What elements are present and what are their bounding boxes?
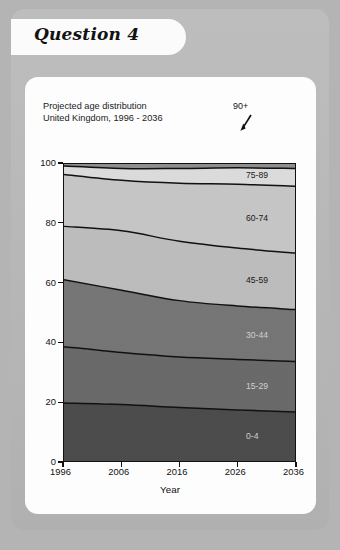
band-label: 60-74	[246, 213, 268, 223]
y-axis-tick	[58, 282, 63, 283]
stacked-area-chart	[63, 163, 296, 462]
y-axis-tick-label: 80	[27, 217, 56, 228]
x-axis-tick	[295, 462, 296, 467]
x-axis-tick-label: 2016	[167, 466, 188, 477]
x-axis-title: Year	[0, 484, 340, 495]
figure-title: Projected age distribution United Kingdo…	[43, 100, 163, 125]
figure-title-line-2: United Kingdom, 1996 - 2036	[43, 112, 163, 124]
band-label: 15-29	[246, 381, 268, 391]
figure-title-line-1: Projected age distribution	[43, 100, 163, 112]
y-axis-tick-label: 100	[27, 157, 56, 168]
y-axis-tick	[58, 402, 63, 403]
x-axis-tick	[237, 462, 238, 467]
annotation-90plus-label: 90+	[233, 101, 248, 111]
question-label: Question 4	[34, 24, 139, 44]
x-axis-tick	[121, 462, 122, 467]
band-label: 0-4	[246, 431, 258, 441]
arrow-down-left-icon	[239, 114, 253, 132]
y-axis-tick	[58, 342, 63, 343]
y-axis-tick	[58, 162, 63, 163]
y-axis-tick	[58, 222, 63, 223]
y-axis-tick-label: 20	[27, 396, 56, 407]
x-axis-tick-label: 2026	[225, 466, 246, 477]
y-axis-tick-label: 40	[27, 336, 56, 347]
band-label: 75-89	[246, 170, 268, 180]
screenshot-root: Question 4 Projected age distribution Un…	[0, 0, 340, 550]
y-axis-tick-label: 60	[27, 277, 56, 288]
band-label: 30-44	[246, 330, 268, 340]
band-label: 45-59	[246, 275, 268, 285]
chart-bands	[64, 164, 295, 461]
x-axis-tick-label: 1996	[50, 466, 71, 477]
x-axis-tick-label: 2036	[283, 466, 304, 477]
x-axis-tick-label: 2006	[108, 466, 129, 477]
x-axis-tick	[62, 462, 63, 467]
x-axis-tick	[179, 462, 180, 467]
